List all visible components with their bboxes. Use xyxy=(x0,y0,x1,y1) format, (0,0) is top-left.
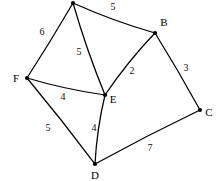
vertex-label-e: E xyxy=(110,94,117,105)
graph-vertex-dot xyxy=(25,76,29,80)
graph-edge xyxy=(155,33,200,110)
graph-edge xyxy=(27,3,73,78)
graph-edge xyxy=(95,110,200,164)
edge-weight-label: 6 xyxy=(40,27,45,37)
edge-weight-label: 5 xyxy=(46,123,51,133)
graph-diagram-canvas: 565234457BCDEF xyxy=(0,0,217,181)
edge-weight-label: 5 xyxy=(111,2,116,12)
vertex-label-c: C xyxy=(205,107,212,118)
vertex-label-d: D xyxy=(91,170,99,181)
edge-weight-label: 4 xyxy=(92,123,97,133)
graph-vertex-dot xyxy=(198,108,202,112)
edge-weight-label: 5 xyxy=(77,47,82,57)
vertex-label-f: F xyxy=(13,73,19,84)
graph-vertex-dot xyxy=(93,162,97,166)
edge-layer xyxy=(27,3,200,164)
graph-vertex-dot xyxy=(71,1,75,5)
edge-weight-label: 3 xyxy=(184,63,189,73)
graph-edge xyxy=(105,33,155,95)
vertex-label-b: B xyxy=(160,17,167,28)
edge-weight-label: 7 xyxy=(148,143,153,153)
edge-weight-label: 2 xyxy=(130,66,135,76)
edge-weight-label: 4 xyxy=(61,92,66,102)
graph-edge xyxy=(95,95,105,164)
graph-vertex-dot xyxy=(103,93,107,97)
graph-svg xyxy=(0,0,217,181)
graph-vertex-dot xyxy=(153,31,157,35)
